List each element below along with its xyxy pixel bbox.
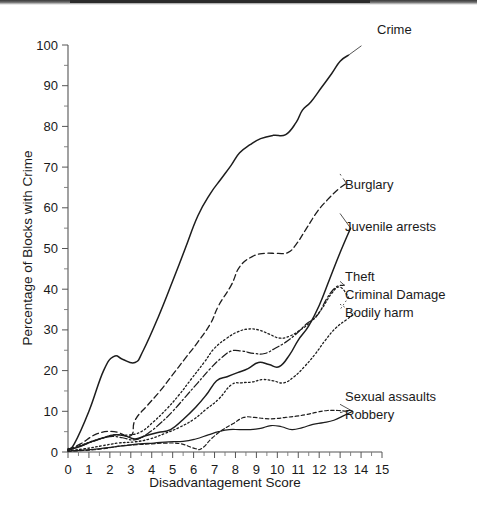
series-label-crime: Crime bbox=[377, 22, 412, 37]
y-tick-label: 60 bbox=[44, 200, 58, 215]
x-tick-label: 13 bbox=[333, 462, 347, 477]
series-labels-group: CrimeBurglaryJuvenile arrestsTheftCrimin… bbox=[345, 22, 445, 422]
series-label-criminal-damage: Criminal Damage bbox=[345, 287, 445, 302]
leader-line-theft bbox=[340, 281, 344, 285]
x-axis-title: Disadvantagement Score bbox=[149, 475, 301, 490]
y-tick-label: 80 bbox=[44, 119, 58, 134]
series-line-burglary bbox=[68, 183, 346, 449]
y-axis-title: Percentage of Blocks with Crime bbox=[20, 150, 35, 345]
x-tick-label: 0 bbox=[64, 462, 71, 477]
series-line-crime bbox=[68, 55, 349, 449]
series-label-bodily-harm: Bodily harm bbox=[345, 305, 414, 320]
y-axis-ticks: 0102030405060708090100 bbox=[36, 38, 68, 460]
series-label-theft: Theft bbox=[345, 269, 375, 284]
y-tick-label: 50 bbox=[44, 241, 58, 256]
y-tick-label: 40 bbox=[44, 282, 58, 297]
series-line-sexual-assaults bbox=[68, 410, 349, 451]
x-tick-label: 1 bbox=[85, 462, 92, 477]
y-tick-label: 70 bbox=[44, 160, 58, 175]
series-label-juvenile-arrests: Juvenile arrests bbox=[345, 219, 437, 234]
x-tick-label: 12 bbox=[312, 462, 326, 477]
y-tick-label: 100 bbox=[36, 38, 58, 53]
series-label-robbery: Robbery bbox=[345, 407, 395, 422]
leader-line-crime bbox=[349, 46, 362, 55]
data-series-group bbox=[68, 55, 355, 451]
series-line-juvenile-arrests bbox=[68, 228, 351, 450]
series-line-bodily-harm bbox=[68, 314, 355, 451]
y-tick-label: 0 bbox=[51, 445, 58, 460]
series-label-burglary: Burglary bbox=[345, 177, 394, 192]
y-tick-label: 30 bbox=[44, 322, 58, 337]
line-chart: 0102030405060708090100 01234567891011121… bbox=[0, 0, 477, 507]
x-tick-label: 2 bbox=[106, 462, 113, 477]
x-tick-label: 14 bbox=[354, 462, 368, 477]
series-label-sexual-assaults: Sexual assaults bbox=[345, 389, 437, 404]
y-tick-label: 20 bbox=[44, 363, 58, 378]
series-line-criminal-damage bbox=[68, 287, 349, 450]
chart-page: 0102030405060708090100 01234567891011121… bbox=[0, 0, 477, 507]
x-tick-label: 15 bbox=[375, 462, 389, 477]
y-tick-label: 90 bbox=[44, 78, 58, 93]
y-tick-label: 10 bbox=[44, 404, 58, 419]
x-axis-ticks: 0123456789101112131415 bbox=[64, 452, 389, 477]
x-tick-label: 3 bbox=[127, 462, 134, 477]
